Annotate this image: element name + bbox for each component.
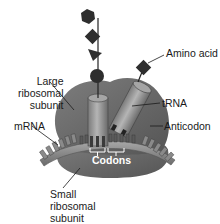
label-line: ribosomal — [50, 200, 96, 212]
label-mrna: mRNA — [14, 120, 45, 132]
amino-acid-attached — [136, 60, 152, 82]
amino-acid-circle — [90, 69, 104, 83]
label-line: ribosomal — [18, 87, 64, 99]
label-trna: tRNA — [162, 97, 187, 109]
label-line: Large — [18, 75, 64, 87]
amino-acid-hexagon — [81, 9, 95, 24]
label-line: Small — [50, 188, 96, 200]
ribosome-diagram — [0, 0, 220, 224]
label-small-ribosomal-subunit: Small ribosomal subunit — [50, 188, 96, 224]
label-amino-acid: Amino acid — [166, 47, 218, 59]
trna-left — [88, 94, 108, 147]
label-large-ribosomal-subunit: Large ribosomal subunit — [18, 75, 64, 111]
label-line: subunit — [50, 212, 96, 224]
amino-acid-triangle — [88, 49, 102, 61]
label-anticodon: Anticodon — [164, 120, 211, 132]
label-line: subunit — [18, 99, 64, 111]
label-codons: Codons — [92, 154, 131, 166]
